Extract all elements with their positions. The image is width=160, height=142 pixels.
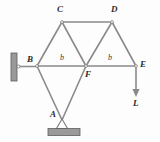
node-label-f: F	[85, 70, 91, 79]
load-arrow-head-icon	[132, 89, 139, 97]
joint-c	[61, 21, 64, 24]
node-label-e: E	[140, 60, 146, 69]
node-label-d: D	[111, 5, 118, 14]
load-label: L	[133, 99, 139, 108]
member-b-c	[37, 22, 62, 66]
member-d-e	[112, 22, 136, 66]
node-label-c: C	[57, 5, 63, 14]
ground-support-base-plate	[48, 129, 80, 136]
truss-figure: C D B E F A b b L	[0, 0, 160, 142]
load-arrow-group	[132, 67, 139, 97]
member-a-f	[62, 66, 86, 120]
joint-f	[85, 65, 88, 68]
ground-support-triangle-icon	[57, 119, 68, 129]
joint-e	[135, 65, 138, 68]
dimension-label-right-bay: b	[108, 54, 112, 62]
wall-support-pin-icon	[17, 65, 20, 68]
truss-diagram-canvas	[0, 0, 160, 142]
node-label-b: B	[27, 55, 33, 64]
member-c-f	[62, 22, 86, 66]
truss-joints-group	[36, 21, 138, 68]
dimension-label-left-bay: b	[60, 54, 64, 62]
wall-support-plate	[11, 53, 17, 81]
joint-d	[111, 21, 114, 24]
node-label-a: A	[50, 110, 56, 119]
wall-support-group	[11, 53, 38, 81]
ground-support-group	[48, 119, 80, 136]
joint-b	[36, 65, 39, 68]
